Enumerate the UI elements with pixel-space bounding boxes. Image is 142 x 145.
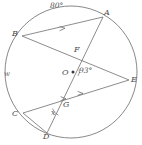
point-label-A: A [104, 9, 110, 17]
geometry-canvas [0, 0, 142, 145]
point-label-C: C [12, 110, 18, 118]
circle-w [5, 6, 137, 138]
point-label-D: D [43, 133, 49, 141]
point-label-B: B [12, 30, 18, 38]
angle-variable-label-x: x [51, 109, 55, 117]
parallel-arrow-marker-BA [60, 27, 65, 31]
angle-measure-label-93: 93° [79, 67, 92, 75]
center-point-dot-O [72, 71, 75, 74]
arc-measure-label-80: 80° [50, 2, 63, 10]
chord-AD [47, 17, 103, 133]
point-label-G: G [63, 101, 69, 109]
circle-name-label-w: w [4, 71, 10, 78]
chord-BA [22, 17, 103, 36]
circle-geometry-diagram: A B C D E O F G 80° 93° w x [0, 0, 142, 145]
chord-CD [23, 113, 47, 133]
point-label-O: O [62, 69, 69, 77]
chord-CE [23, 80, 129, 113]
point-label-F: F [74, 46, 80, 54]
point-label-E: E [131, 76, 137, 84]
